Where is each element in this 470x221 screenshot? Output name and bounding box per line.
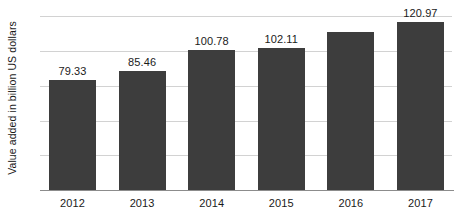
x-axis-tick-label: 2015: [258, 193, 305, 215]
bar-value-label: 120.97: [403, 7, 437, 19]
bar[interactable]: [258, 48, 305, 190]
bar-slot: 100.78: [188, 8, 235, 190]
bar[interactable]: [49, 80, 96, 190]
bar-series: 79.3385.46100.78102.11120.97: [40, 8, 452, 190]
x-axis-tick-label: 2014: [188, 193, 235, 215]
bar-slot: 79.33: [49, 8, 96, 190]
x-axis-tick-label: 2016: [327, 193, 374, 215]
plot-area: 79.3385.46100.78102.11120.97: [40, 8, 452, 190]
x-axis-labels: 201220132014201520162017: [40, 193, 452, 215]
bar[interactable]: [327, 32, 374, 190]
x-axis-tick-label: 2012: [49, 193, 96, 215]
bar-value-label: 85.46: [128, 56, 156, 68]
x-axis-line: [40, 190, 454, 191]
bar-value-label: 102.11: [265, 33, 298, 45]
bar[interactable]: [188, 50, 235, 190]
x-axis-tick-label: 2017: [397, 193, 444, 215]
bar-slot: 102.11: [258, 8, 305, 190]
bar-slot: 120.97: [397, 8, 444, 190]
bar-chart: Value added in billion US dollars 79.338…: [0, 0, 470, 221]
bar[interactable]: [397, 22, 444, 190]
bar-slot: 85.46: [119, 8, 166, 190]
bar-value-label: 100.78: [195, 35, 229, 47]
bar[interactable]: [119, 71, 166, 190]
y-axis-title-label: Value added in billion US dollars: [6, 21, 18, 175]
bar-slot: [327, 8, 374, 190]
x-axis-tick-label: 2013: [119, 193, 166, 215]
bar-value-label: 79.33: [58, 65, 86, 77]
y-axis-title: Value added in billion US dollars: [0, 0, 24, 196]
